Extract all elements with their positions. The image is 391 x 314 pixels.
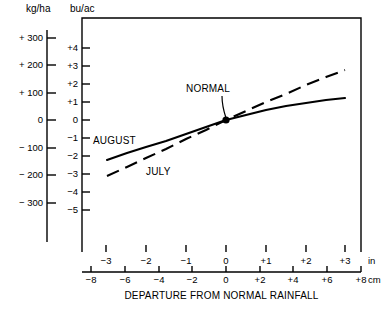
x-cm-tick-label-0: −8 [73,275,109,285]
buac-tick-label-5: −1 [50,133,78,143]
x-in-unit-label: in [368,256,375,266]
kgha-tick-label-2: + 100 [0,88,43,98]
series-august-curve [107,98,345,160]
x-cm-tick-label-4: 0 [208,275,244,285]
x-in-tick-label-0: −3 [86,256,126,266]
x-cm-tick-label-6: +4 [275,275,311,285]
x-axis-title: DEPARTURE FROM NORMAL RAINFALL [82,291,361,301]
x-cm-tick-label-1: −6 [107,275,143,285]
buac-tick-label-7: −3 [50,169,78,179]
buac-axis-ticks [82,48,90,210]
kgha-tick-label-3: 0 [0,115,43,125]
kgha-tick-label-5: − 200 [0,170,43,180]
x-cm-tick-label-2: −4 [141,275,177,285]
x-axis-cm [82,266,361,272]
x-cm-tick-label-7: +6 [309,275,345,285]
chart-figure: kg/ha bu/ac + 300 + 200 + 100 0 − 100 − … [0,0,391,314]
buac-tick-label-4: 0 [50,115,78,125]
x-in-tick-label-6: +3 [325,256,365,266]
buac-tick-label-2: +2 [50,79,78,89]
series-label-july: JULY [146,167,171,177]
kgha-tick-label-1: + 200 [0,60,43,70]
kgha-tick-label-0: + 300 [0,33,43,43]
x-in-tick-label-1: −2 [126,256,166,266]
x-cm-tick-label-3: −2 [174,275,210,285]
x-cm-tick-label-5: +2 [242,275,278,285]
kgha-unit-header: kg/ha [26,4,50,14]
x-cm-unit-label: cm [368,275,381,285]
kgha-tick-label-6: − 300 [0,198,43,208]
x-in-tick-label-2: −1 [166,256,206,266]
x-in-tick-label-4: +1 [246,256,286,266]
x-in-tick-label-3: 0 [206,256,246,266]
buac-tick-label-8: −4 [50,187,78,197]
x-axis-in-ticks [106,245,345,252]
normal-point-label: NORMAL [186,84,230,94]
series-label-august: AUGUST [93,136,136,146]
kgha-tick-label-4: − 100 [0,143,43,153]
buac-tick-label-1: +3 [50,61,78,71]
buac-tick-label-9: −5 [50,205,78,215]
buac-tick-label-3: +1 [50,97,78,107]
x-in-tick-label-5: +2 [286,256,326,266]
buac-tick-label-0: +4 [50,43,78,53]
normal-point-marker [222,96,230,124]
buac-unit-header: bu/ac [70,4,94,14]
buac-tick-label-6: −2 [50,151,78,161]
